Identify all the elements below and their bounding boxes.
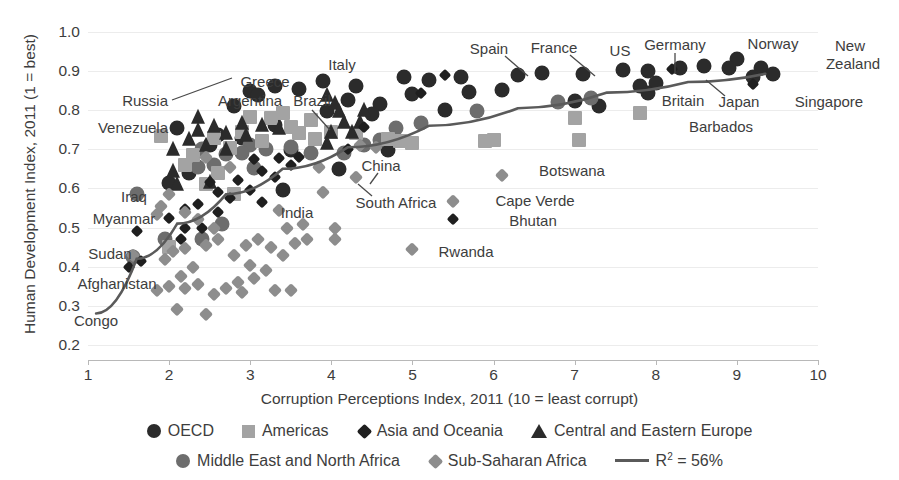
annotation-label: Britain	[662, 92, 705, 109]
annotation-label: France	[531, 39, 578, 56]
legend-item[interactable]: Sub-Saharan Africa	[428, 452, 587, 470]
y-tick-label: 0.2	[36, 336, 80, 354]
data-point	[405, 86, 420, 101]
data-point	[494, 83, 509, 98]
data-point	[170, 120, 185, 135]
gridline	[88, 149, 818, 150]
data-point	[276, 248, 290, 262]
circle-swatch-icon	[147, 424, 161, 438]
legend-row: Middle East and North AfricaSub-Saharan …	[0, 446, 899, 476]
data-point	[348, 78, 363, 93]
data-point	[179, 241, 193, 255]
data-point	[191, 198, 204, 211]
annotation-label: Rwanda	[438, 243, 493, 260]
x-tick-mark	[737, 360, 738, 365]
data-point	[247, 161, 262, 176]
data-point	[203, 174, 217, 189]
data-point	[211, 166, 225, 180]
data-point	[182, 165, 197, 180]
scatter-chart: Human Development Index, 2011 (1 = best)…	[0, 0, 899, 480]
data-point	[349, 126, 363, 140]
data-point	[190, 159, 205, 174]
x-tick-mark	[494, 360, 495, 365]
annotation-label: Congo	[74, 312, 118, 329]
data-point	[175, 233, 188, 246]
data-point	[304, 113, 318, 127]
data-point	[179, 202, 192, 215]
legend-item[interactable]: Asia and Oceania	[357, 422, 503, 440]
data-point	[235, 146, 250, 161]
data-point	[219, 281, 233, 295]
data-point	[353, 114, 367, 129]
annotation-label: Spain	[470, 40, 508, 57]
data-point	[248, 153, 261, 166]
data-point	[369, 141, 383, 155]
annotation-label: Brazil	[293, 92, 331, 109]
legend: OECDAmericasAsia and OceaniaCentral and …	[0, 416, 899, 476]
data-point	[447, 213, 460, 226]
data-point	[199, 238, 213, 252]
y-tick-label: 1.0	[36, 23, 80, 41]
annotation-label: Myanmar	[93, 210, 156, 227]
circle-swatch-icon	[176, 454, 190, 468]
data-point	[633, 106, 647, 120]
data-point	[206, 157, 221, 172]
diamond-swatch-icon	[428, 453, 444, 469]
data-point	[357, 120, 370, 133]
x-tick-label: 10	[809, 366, 826, 384]
x-tick-mark	[331, 360, 332, 365]
data-point	[211, 232, 225, 246]
annotation-label: Afghanistan	[77, 275, 156, 292]
data-point	[264, 111, 278, 125]
data-point	[329, 232, 343, 246]
data-point	[293, 150, 306, 163]
data-point	[219, 125, 233, 140]
legend-item-label: R2 = 56%	[656, 451, 723, 470]
data-point	[308, 132, 322, 146]
y-tick-label: 0.4	[36, 258, 80, 276]
annotation-label: US	[610, 42, 631, 59]
legend-item-label: Central and Eastern Europe	[554, 422, 752, 440]
annotation-label: China	[361, 157, 400, 174]
legend-item[interactable]: R2 = 56%	[615, 451, 723, 470]
data-point	[478, 134, 492, 148]
annotation-label: Bhutan	[509, 212, 557, 229]
line-swatch-icon	[615, 459, 649, 462]
data-point	[364, 107, 379, 122]
data-point	[535, 65, 550, 80]
legend-item[interactable]: OECD	[147, 422, 214, 440]
annotation-label: Singapore	[795, 93, 863, 110]
legend-item[interactable]: Middle East and North Africa	[176, 452, 400, 470]
data-point	[243, 258, 257, 272]
x-tick-label: 5	[408, 366, 417, 384]
data-point	[300, 232, 314, 246]
data-point	[256, 165, 269, 178]
x-tick-label: 6	[489, 366, 498, 384]
data-point	[284, 283, 298, 297]
data-point	[235, 125, 249, 139]
data-point	[754, 60, 769, 75]
data-point	[583, 90, 598, 105]
data-point	[166, 244, 180, 258]
legend-item[interactable]: Central and Eastern Europe	[531, 422, 752, 440]
x-tick-label: 1	[84, 366, 93, 384]
annotation-label: Greece	[240, 73, 289, 90]
legend-item-label: Sub-Saharan Africa	[448, 452, 587, 470]
y-axis-tick-labels: 1.00.90.80.70.60.50.40.30.2	[32, 30, 80, 345]
legend-item[interactable]: Americas	[242, 422, 329, 440]
data-point	[356, 138, 371, 153]
annotation-label: Russia	[122, 92, 168, 109]
data-point	[551, 95, 566, 110]
legend-item-label: Middle East and North Africa	[197, 452, 400, 470]
data-point	[162, 187, 176, 201]
data-point	[336, 146, 351, 161]
y-tick-label: 0.6	[36, 179, 80, 197]
gridline	[88, 32, 818, 33]
data-point	[191, 277, 205, 291]
data-point	[673, 60, 688, 75]
data-point	[495, 169, 509, 183]
x-tick-mark	[818, 360, 819, 365]
data-point	[283, 139, 298, 154]
annotation-label: Cape Verde	[495, 192, 574, 209]
annotation-label: Iraq	[121, 188, 147, 205]
